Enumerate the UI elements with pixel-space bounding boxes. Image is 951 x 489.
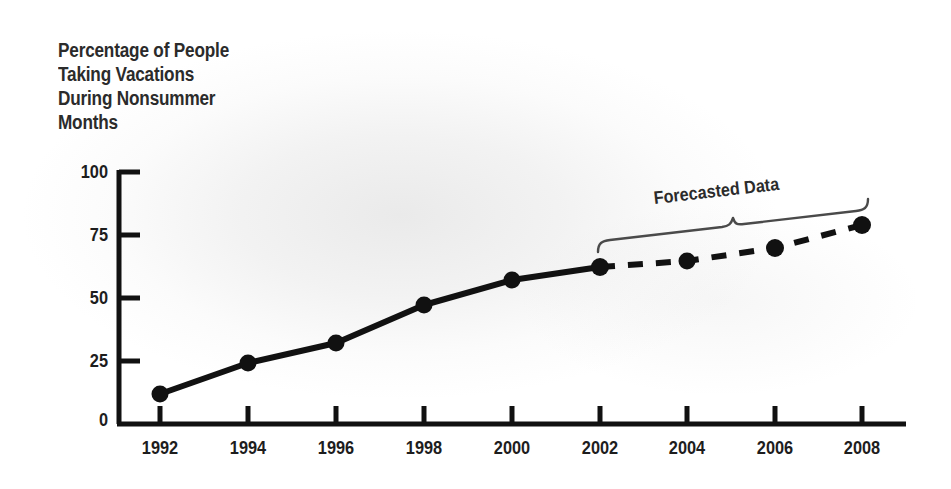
forecast-brace bbox=[598, 199, 868, 252]
y-tick-label-25: 25 bbox=[53, 350, 108, 372]
data-point-2006[interactable] bbox=[766, 239, 784, 257]
data-point-2000[interactable] bbox=[504, 272, 521, 289]
x-tick-label-1998: 1998 bbox=[381, 437, 467, 459]
x-tick-label-2000: 2000 bbox=[469, 437, 555, 459]
data-point-1996[interactable] bbox=[328, 335, 345, 352]
data-point-2002[interactable] bbox=[591, 258, 609, 276]
x-tick-label-1994: 1994 bbox=[205, 437, 291, 459]
x-tick-label-1996: 1996 bbox=[293, 437, 379, 459]
x-tick-label-1992: 1992 bbox=[117, 437, 203, 459]
data-point-2004[interactable] bbox=[679, 253, 696, 270]
x-tick-label-2004: 2004 bbox=[644, 437, 730, 459]
y-axis-ticks bbox=[119, 172, 140, 361]
y-tick-label-100: 100 bbox=[53, 161, 108, 183]
y-tick-label-50: 50 bbox=[53, 287, 108, 309]
series-forecast-line bbox=[600, 225, 862, 267]
y-tick-label-0: 0 bbox=[53, 409, 108, 431]
data-point-markers bbox=[152, 216, 872, 403]
data-point-1992[interactable] bbox=[152, 386, 169, 403]
series-actual-line bbox=[160, 267, 600, 394]
x-tick-label-2002: 2002 bbox=[557, 437, 643, 459]
data-point-1994[interactable] bbox=[240, 355, 257, 372]
data-point-2008[interactable] bbox=[853, 216, 871, 234]
plot-area bbox=[0, 0, 951, 489]
y-tick-label-75: 75 bbox=[53, 224, 108, 246]
x-tick-label-2006: 2006 bbox=[732, 437, 818, 459]
x-axis-ticks bbox=[160, 406, 862, 424]
chart-figure: Percentage of People Taking Vacations Du… bbox=[0, 0, 951, 489]
data-point-1998[interactable] bbox=[416, 297, 433, 314]
x-tick-label-2008: 2008 bbox=[819, 437, 905, 459]
